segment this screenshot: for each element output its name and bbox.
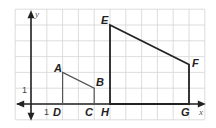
x-axis-label: x	[198, 107, 203, 117]
point-label-b: B	[96, 76, 104, 88]
point-label-e: E	[101, 14, 109, 26]
point-label-a: A	[53, 62, 62, 74]
y-axis-label: y	[34, 9, 39, 19]
x-axis-arrow-left-icon	[16, 101, 24, 108]
point-label-f: F	[192, 57, 199, 69]
y-axis-arrow-up-icon	[28, 10, 35, 18]
quadrilateral-efgh	[110, 25, 189, 104]
coordinate-grid-figure: y x 1 1 A B C D E F G H	[0, 0, 216, 128]
point-label-g: G	[181, 106, 190, 118]
point-label-c: C	[85, 106, 94, 118]
point-label-h: H	[101, 106, 110, 118]
y-tick-one: 1	[22, 85, 27, 95]
point-label-d: D	[53, 106, 61, 118]
x-tick-one: 1	[44, 107, 49, 117]
